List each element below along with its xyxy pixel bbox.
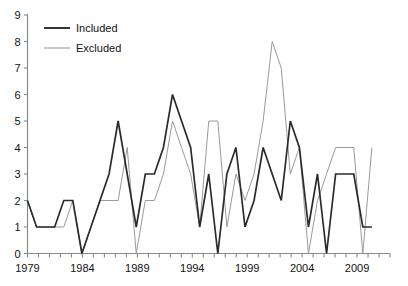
legend-label-excluded: Excluded [76,42,121,54]
y-tick-label: 5 [14,115,20,127]
x-tick-label: 2004 [290,262,314,274]
y-tick-label: 2 [14,195,20,207]
chart-legend: IncludedExcluded [44,22,121,54]
y-tick-label: 0 [14,248,20,260]
series-layer [28,42,372,254]
series-line-included [28,95,372,254]
x-tick-label: 1979 [15,262,39,274]
legend-label-included: Included [76,22,118,34]
y-tick-label: 1 [14,221,20,233]
y-tick-label: 3 [14,168,20,180]
y-tick-label: 7 [14,62,20,74]
x-tick-label: 1989 [125,262,149,274]
x-tick-label: 1984 [70,262,94,274]
y-tick-label: 6 [14,89,20,101]
chart-container: 0123456789 1979198419891994199920042009 … [0,0,408,286]
y-axis-tick-labels: 0123456789 [14,9,20,260]
x-axis-ticks [28,254,391,258]
y-tick-label: 8 [14,36,20,48]
x-tick-label: 1999 [235,262,259,274]
y-tick-label: 9 [14,9,20,21]
x-tick-label: 2009 [345,262,369,274]
line-chart: 0123456789 1979198419891994199920042009 … [0,0,408,286]
x-axis-tick-labels: 1979198419891994199920042009 [15,262,369,274]
x-tick-label: 1994 [180,262,204,274]
y-tick-label: 4 [14,142,20,154]
